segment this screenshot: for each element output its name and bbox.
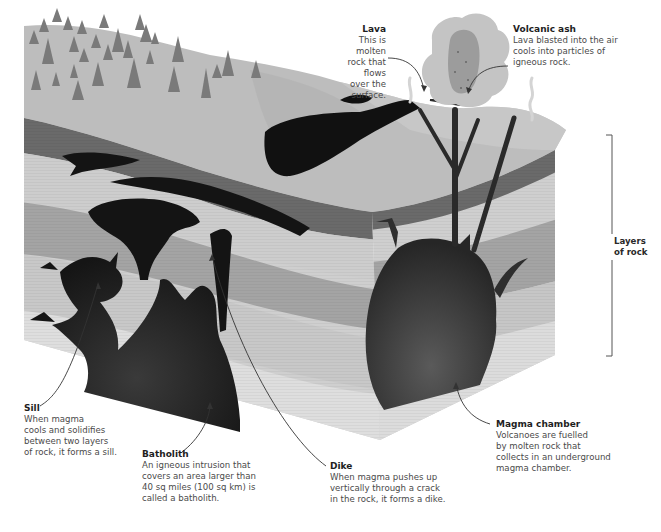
dike-desc-1: When magma pushes up [330,472,455,483]
volcanic-ash-desc-1: Lava blasted into the air [513,35,643,46]
volcanic-ash-title: Volcanic ash [513,24,643,35]
sill-desc-4: of rock, it forms a sill. [24,447,134,458]
dike-desc-3: in the rock, it forms a dike. [330,494,455,505]
layers-of-rock-2: of rock [614,247,648,258]
lava-desc-2: rock that flows [330,57,386,79]
label-magma-chamber: Magma chamber Volcanoes are fuelled by m… [496,419,621,474]
magma-chamber-desc-3: collects in an underground [496,452,621,463]
batholith-desc-2: covers an area larger than [142,471,267,482]
lava-arrow [388,58,424,90]
magma-chamber-desc-2: by molten rock that [496,441,621,452]
lava-title: Lava [330,24,386,35]
magma-chamber-desc-1: Volcanoes are fuelled [496,430,621,441]
sill-desc-3: between two layers [24,436,134,447]
dike-title: Dike [330,461,455,472]
volcanic-ash-desc-3: igneous rock. [513,57,643,68]
sill-desc-2: cools and solidifies [24,425,134,436]
label-batholith: Batholith An igneous intrusion that cove… [142,449,267,504]
batholith-desc-4: called a batholith. [142,493,267,504]
volcanic-ash-desc-2: cools into particles of [513,46,643,57]
lava-desc-1: This is molten [330,35,386,57]
batholith-title: Batholith [142,449,267,460]
volcanic-ash-cloud [422,14,509,108]
sill-desc-1: When magma [24,414,134,425]
batholith-desc-1: An igneous intrusion that [142,460,267,471]
magma-chamber-desc-4: magma chamber. [496,463,621,474]
layers-bracket [606,135,612,356]
label-dike: Dike When magma pushes up vertically thr… [330,461,455,505]
lava-desc-3: over the surface. [330,79,386,101]
batholith-desc-3: 40 sq miles (100 sq km) is [142,482,267,493]
sill-title: Sill [24,403,134,414]
magma-chamber-title: Magma chamber [496,419,621,430]
layers-of-rock-1: Layers [614,236,648,247]
label-volcanic-ash: Volcanic ash Lava blasted into the air c… [513,24,643,68]
label-lava: Lava This is molten rock that flows over… [330,24,386,101]
dike-desc-2: vertically through a crack [330,483,455,494]
label-sill: Sill When magma cools and solidifies bet… [24,403,134,458]
label-layers-of-rock: Layers of rock [614,236,648,258]
